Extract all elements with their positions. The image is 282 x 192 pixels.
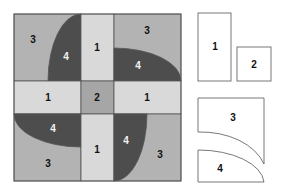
- label-bottom-1: 1: [94, 144, 100, 155]
- quilt-diagram: 3 4 1 3 4 1 2 1 4 3 1 4 3 1 2 3 4: [0, 0, 282, 192]
- label-br-3: 3: [157, 149, 163, 160]
- label-bl-4: 4: [50, 123, 56, 134]
- label-template-3: 3: [230, 112, 236, 123]
- label-template-2: 2: [251, 59, 257, 70]
- label-tl-3: 3: [30, 34, 36, 45]
- label-tr-4: 4: [135, 60, 141, 71]
- label-center-2: 2: [94, 92, 100, 103]
- label-tr-3: 3: [144, 25, 150, 36]
- label-template-1: 1: [212, 41, 218, 52]
- templates: [198, 13, 271, 182]
- label-right-1: 1: [144, 92, 150, 103]
- label-top-1: 1: [94, 42, 100, 53]
- label-template-4: 4: [217, 163, 223, 174]
- label-br-4: 4: [123, 135, 129, 146]
- label-tl-4: 4: [63, 51, 69, 62]
- label-left-1: 1: [45, 92, 51, 103]
- label-bl-3: 3: [45, 158, 51, 169]
- template-piece-4: [198, 150, 264, 182]
